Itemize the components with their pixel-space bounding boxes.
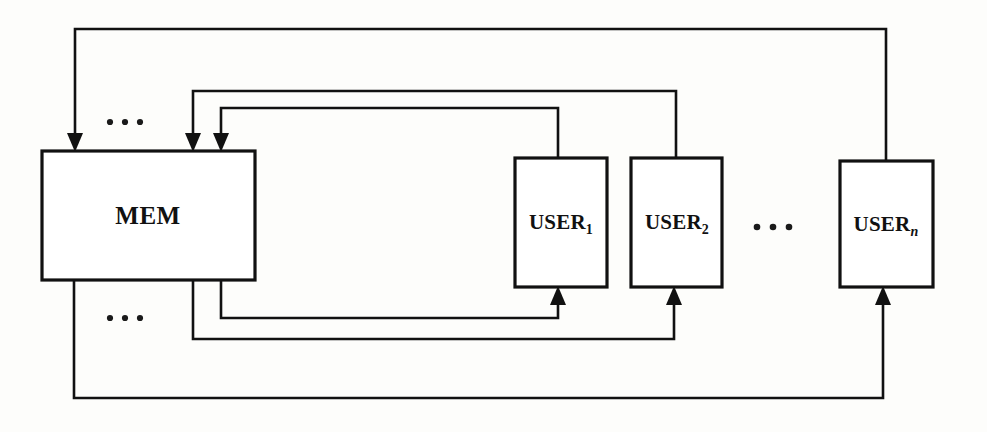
usern-subscript: n — [910, 224, 918, 239]
user2-subscript: 2 — [702, 222, 709, 237]
ellipsis-dot — [137, 119, 143, 125]
arrowhead-into-usern — [875, 286, 891, 305]
wire-user2-to-mem — [193, 91, 676, 158]
arrowhead-into-user2 — [666, 286, 682, 305]
arrowhead-into-mem-left — [67, 133, 83, 152]
ellipsis-dot — [137, 315, 143, 321]
ellipsis-dot — [107, 315, 113, 321]
ellipsis-dot — [107, 119, 113, 125]
arrowhead-into-user1 — [550, 286, 566, 305]
node-user1[interactable]: USER1 — [515, 158, 607, 287]
ellipsis-users — [754, 224, 793, 231]
mem-label: MEM — [115, 202, 180, 229]
user1-label: USER1 — [529, 210, 593, 237]
user1-subscript: 1 — [586, 222, 593, 237]
wire-mem-to-user2 — [193, 280, 674, 339]
ellipsis-dot — [786, 224, 793, 231]
ellipsis-dot — [754, 224, 761, 231]
wire-mem-to-user1 — [221, 280, 558, 318]
arrowhead-into-mem-right — [213, 133, 229, 152]
node-user2[interactable]: USER2 — [631, 158, 722, 287]
arrowhead-into-mem-mid — [185, 133, 201, 152]
ellipsis-dot — [770, 224, 777, 231]
diagram-svg: MEM USER1 USER2 USERn — [0, 0, 987, 432]
ellipsis-dot — [122, 119, 128, 125]
wire-user1-to-mem — [221, 108, 558, 158]
ellipsis-mem-bottom — [107, 315, 143, 321]
node-usern[interactable]: USERn — [840, 161, 933, 287]
usern-label: USERn — [854, 212, 919, 239]
block-diagram-canvas: MEM USER1 USER2 USERn — [0, 0, 987, 432]
user2-label: USER2 — [645, 210, 709, 237]
ellipsis-mem-top — [107, 119, 143, 125]
ellipsis-dot — [122, 315, 128, 321]
node-mem[interactable]: MEM — [42, 151, 255, 280]
